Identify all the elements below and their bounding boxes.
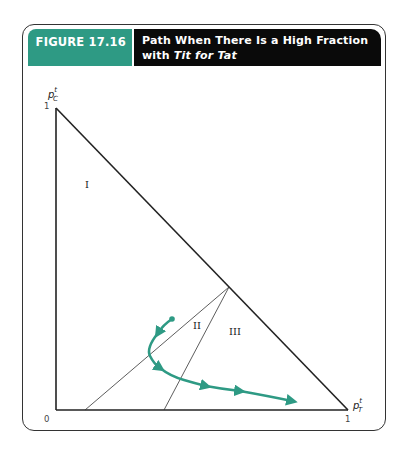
dividing-line-right	[164, 287, 229, 410]
dividing-line-left	[85, 287, 229, 410]
origin-label: 0	[44, 414, 49, 424]
simplex-boundary	[56, 108, 348, 410]
trajectory-path	[149, 319, 292, 401]
region-label-2: II	[193, 320, 201, 331]
plot-area	[0, 0, 410, 456]
x-axis-label: ptT	[353, 399, 362, 414]
x-tick-1: 1	[345, 414, 350, 424]
y-axis-label: ptC	[48, 88, 58, 103]
region-label-1: I	[85, 179, 89, 190]
path-start-dot	[169, 316, 175, 322]
region-label-3: III	[229, 326, 241, 337]
y-tick-1: 1	[44, 101, 49, 111]
